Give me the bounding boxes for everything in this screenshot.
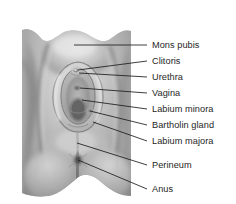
vulva-region <box>53 62 103 132</box>
label-vagina: Vagina <box>152 89 180 98</box>
label-urethra: Urethra <box>152 73 183 82</box>
label-labium-minora: Labium minora <box>152 105 213 114</box>
anatomy-illustration <box>0 0 236 204</box>
label-mons-pubis: Mons pubis <box>152 41 199 50</box>
label-anus: Anus <box>152 185 173 194</box>
label-bartholin-gland: Bartholin gland <box>152 121 214 130</box>
label-clitoris: Clitoris <box>152 57 180 66</box>
body-silhouette <box>10 28 150 202</box>
anatomy-diagram-figure: Mons pubisClitorisUrethraVaginaLabium mi… <box>0 0 236 204</box>
label-perineum: Perineum <box>152 161 192 170</box>
label-labium-majora: Labium majora <box>152 137 213 146</box>
